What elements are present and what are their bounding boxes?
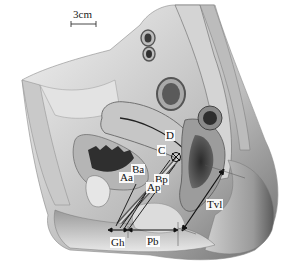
label-c: C xyxy=(157,145,166,156)
label-ap: Ap xyxy=(146,182,161,193)
anatomy-diagram xyxy=(0,0,286,276)
label-pb: Pb xyxy=(146,236,160,247)
label-tvl: Tvl xyxy=(206,199,223,210)
scale-bar-label: 3cm xyxy=(73,8,92,20)
label-aa: Aa xyxy=(119,172,134,183)
label-gh: Gh xyxy=(110,237,125,248)
label-d: D xyxy=(165,130,175,141)
scale-bar xyxy=(71,21,96,27)
